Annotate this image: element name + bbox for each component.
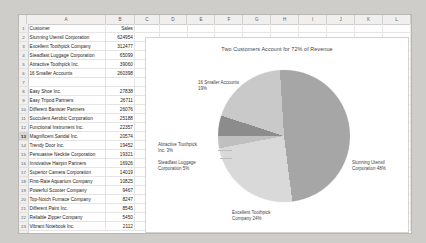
cell-b12[interactable]: 22357 <box>106 123 136 131</box>
cell-b21[interactable]: 8545 <box>106 204 136 212</box>
cell-a21[interactable]: Different Paint Inc. <box>28 204 106 212</box>
spreadsheet-canvas[interactable]: A B C D E F G H I J K L 1234567891011121… <box>18 14 412 234</box>
cell-b4[interactable]: 65099 <box>106 51 136 59</box>
chart-title: Two Customers Account for 72% of Revenue <box>146 46 408 52</box>
cell-a6[interactable]: 16 Smaller Accounts <box>28 69 106 77</box>
row-header-23[interactable]: 23 <box>19 222 28 231</box>
row-header-22[interactable]: 22 <box>19 213 28 222</box>
row-header-17[interactable]: 17 <box>19 168 28 177</box>
cell-a9[interactable]: Easy Tripod Partners <box>28 96 106 104</box>
cell-b20[interactable]: 8247 <box>106 195 136 203</box>
cell-a5[interactable]: Attractive Toothpick Inc. <box>28 60 106 68</box>
row-header-8[interactable]: 8 <box>19 87 28 96</box>
row-header-6[interactable]: 6 <box>19 69 28 78</box>
row-header-15[interactable]: 15 <box>19 150 28 159</box>
cell-L1[interactable] <box>383 24 411 32</box>
cell-b5[interactable]: 39060 <box>106 60 136 68</box>
cell-b3[interactable]: 312477 <box>106 42 136 50</box>
column-header-c[interactable]: C <box>135 15 159 24</box>
cell-a10[interactable]: Different Banister Partners <box>28 105 106 113</box>
cell-b18[interactable]: 10825 <box>106 177 136 185</box>
row-header-9[interactable]: 9 <box>19 96 28 105</box>
column-header-d[interactable]: D <box>160 15 188 24</box>
cell-b23[interactable]: 2112 <box>106 222 136 230</box>
row-header-14[interactable]: 14 <box>19 141 28 150</box>
row-header-11[interactable]: 11 <box>19 114 28 123</box>
row-header-18[interactable]: 18 <box>19 177 28 186</box>
cell-a19[interactable]: Powerful Scooter Company <box>28 186 106 194</box>
cell-a16[interactable]: Innovative Hairpin Partners <box>28 159 106 167</box>
row-header-1[interactable]: 1 <box>19 24 28 33</box>
cell-C1[interactable] <box>135 24 159 32</box>
row-header-20[interactable]: 20 <box>19 195 28 204</box>
column-header-f[interactable]: F <box>215 15 243 24</box>
cell-G1[interactable] <box>243 24 271 32</box>
cell-a14[interactable]: Trendy Door Inc. <box>28 141 106 149</box>
column-header-a[interactable]: A <box>27 15 105 24</box>
cell-b15[interactable]: 19321 <box>106 150 136 158</box>
cell-a15[interactable]: Persuasive Necktie Corporation <box>28 150 106 158</box>
cell-E1[interactable] <box>188 24 216 32</box>
pie-chart-object[interactable]: Two Customers Account for 72% of Revenue… <box>145 37 409 233</box>
column-header-k[interactable]: K <box>355 15 383 24</box>
cell-J1[interactable] <box>327 24 355 32</box>
leader-line-steadfast <box>218 150 232 151</box>
row-header-7[interactable]: 7 <box>19 78 28 87</box>
select-all-corner[interactable] <box>19 15 27 24</box>
cell-a11[interactable]: Succulent Aerobic Corporation <box>28 114 106 122</box>
cell-H1[interactable] <box>271 24 299 32</box>
cell-I1[interactable] <box>299 24 327 32</box>
row-header-19[interactable]: 19 <box>19 186 28 195</box>
cell-b13[interactable]: 20574 <box>106 132 136 140</box>
row-header-3[interactable]: 3 <box>19 42 28 51</box>
cell-b14[interactable]: 19452 <box>106 141 136 149</box>
column-header-i[interactable]: I <box>299 15 327 24</box>
cell-a3[interactable]: Excellent Toothpick Company <box>28 42 106 50</box>
cell-a2[interactable]: Stunning Utensil Corporation <box>28 33 106 41</box>
column-header-h[interactable]: H <box>271 15 299 24</box>
pie-label-16-smaller-accounts: 16 Smaller Accounts 19% <box>198 80 239 92</box>
cell-b22[interactable]: 5450 <box>106 213 136 221</box>
cell-b10[interactable]: 26076 <box>106 105 136 113</box>
cell-a4[interactable]: Steadfast Luggage Corporation <box>28 51 106 59</box>
cell-a1[interactable]: Customer <box>28 24 106 32</box>
column-header-b[interactable]: B <box>106 15 136 24</box>
cell-D1[interactable] <box>160 24 188 32</box>
cell-b8[interactable]: 27838 <box>106 87 136 95</box>
table-row[interactable]: CustomerSales <box>28 24 411 33</box>
column-header-e[interactable]: E <box>187 15 215 24</box>
row-header-2[interactable]: 2 <box>19 33 28 42</box>
cell-b7[interactable] <box>106 78 136 86</box>
column-header-j[interactable]: J <box>327 15 355 24</box>
column-header-g[interactable]: G <box>243 15 271 24</box>
cell-b17[interactable]: 14019 <box>106 168 136 176</box>
cell-F1[interactable] <box>215 24 243 32</box>
cell-a22[interactable]: Reliable Zipper Company <box>28 213 106 221</box>
cell-a12[interactable]: Functional Instrument Inc. <box>28 123 106 131</box>
row-header-10[interactable]: 10 <box>19 105 28 114</box>
row-header-4[interactable]: 4 <box>19 51 28 60</box>
row-header-21[interactable]: 21 <box>19 204 28 213</box>
cell-a8[interactable]: Easy Shoe Inc. <box>28 87 106 95</box>
cell-a20[interactable]: Top-Notch Furnace Company <box>28 195 106 203</box>
cell-b2[interactable]: 624954 <box>106 33 136 41</box>
row-header-13[interactable]: 13 <box>19 132 28 141</box>
cell-b11[interactable]: 25188 <box>106 114 136 122</box>
row-header-16[interactable]: 16 <box>19 159 28 168</box>
column-header-l[interactable]: L <box>383 15 411 24</box>
pie-label-attractive-toothpick: Attractive Toothpick Inc. 3% <box>158 142 197 154</box>
row-header-12[interactable]: 12 <box>19 123 28 132</box>
cell-b1[interactable]: Sales <box>106 24 136 32</box>
cell-K1[interactable] <box>355 24 383 32</box>
cell-a18[interactable]: First-Rate Aquarium Company <box>28 177 106 185</box>
row-header-5[interactable]: 5 <box>19 60 28 69</box>
cell-b19[interactable]: 9467 <box>106 186 136 194</box>
cell-a7[interactable] <box>28 78 106 86</box>
cell-b9[interactable]: 26711 <box>106 96 136 104</box>
cell-b6[interactable]: 260398 <box>106 69 136 77</box>
pie-label-steadfast-luggage: Steadfast Luggage Corporation 5% <box>158 160 196 172</box>
cell-a13[interactable]: Magnificent Sandal Inc. <box>28 132 106 140</box>
cell-a23[interactable]: Vibrant Notebook Inc. <box>28 222 106 230</box>
cell-b16[interactable]: 16926 <box>106 159 136 167</box>
cell-a17[interactable]: Superior Camera Corporation <box>28 168 106 176</box>
